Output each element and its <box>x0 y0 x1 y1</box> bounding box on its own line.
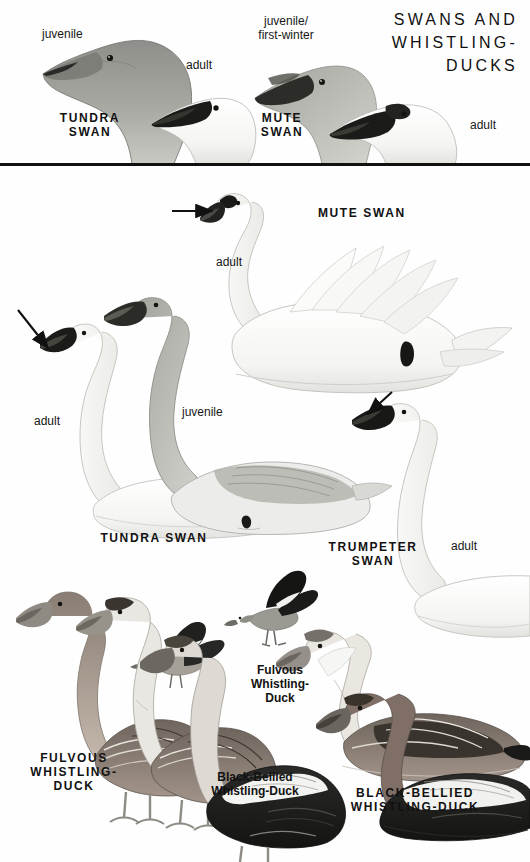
figure-black-bellied-whistling-duck-flight <box>224 570 318 646</box>
figure-mute-swan-swimming-adult <box>200 194 512 393</box>
plate-title-line-1: SWANS AND <box>392 8 518 31</box>
figure-tundra-swan-swimming-juvenile <box>104 298 392 535</box>
figure-tundra-swan-head-juvenile <box>43 40 192 164</box>
label-tundra-juvenile-age: juvenile <box>42 27 83 41</box>
label-mute-species-name: MUTE SWAN <box>240 111 324 139</box>
label-tundra-swan-adult-age: adult <box>34 414 60 428</box>
panel-divider-rule <box>0 163 530 166</box>
label-mute-adult-age: adult <box>470 118 496 132</box>
field-guide-plate: SWANS AND WHISTLING- DUCKS juvenile adul… <box>0 0 530 862</box>
label-mute-swan-adult-age: adult <box>216 255 242 269</box>
label-tundra-adult-age: adult <box>186 58 212 72</box>
label-mute-swan-species-name: MUTE SWAN <box>318 206 406 220</box>
pointer-trumpeter-swan-bill <box>368 392 392 414</box>
pointer-tundra-swan-bill <box>18 310 48 348</box>
label-black-bellied-main-name: BLACK-BELLIED WHISTLING-DUCK <box>330 786 500 814</box>
label-mute-juvenile-age: juvenile/ first-winter <box>238 14 334 42</box>
label-fulvous-main-name: FULVOUS WHISTLING- DUCK <box>14 751 134 793</box>
label-trumpeter-swan-species-name: TRUMPETER SWAN <box>318 540 428 568</box>
plate-title-line-3: DUCKS <box>392 54 518 77</box>
label-tundra-swan-juvenile-age: juvenile <box>182 405 223 419</box>
label-trumpeter-swan-adult-age: adult <box>451 539 477 553</box>
plate-title: SWANS AND WHISTLING- DUCKS <box>392 8 518 78</box>
figure-mute-swan-head-adult <box>330 104 457 164</box>
label-black-bellied-flight-name: Black-Bellied Whistling-Duck <box>200 770 310 798</box>
figure-black-bellied-whistling-duck-swimming-a <box>316 694 530 841</box>
figure-black-bellied-whistling-duck-swimming-b <box>318 648 356 677</box>
label-fulvous-flight-name: Fulvous Whistling- Duck <box>240 663 320 705</box>
figure-fulvous-whistling-duck-flight <box>130 622 225 688</box>
figure-tundra-swan-standing-adult <box>40 324 289 538</box>
label-tundra-species-name: TUNDRA SWAN <box>40 111 140 139</box>
plate-title-line-2: WHISTLING- <box>392 31 518 54</box>
figure-fulvous-whistling-duck-swimming <box>276 630 530 782</box>
figure-trumpeter-swan-swimming-adult <box>352 404 530 638</box>
label-tundra-swan-species-name: TUNDRA SWAN <box>74 531 234 545</box>
